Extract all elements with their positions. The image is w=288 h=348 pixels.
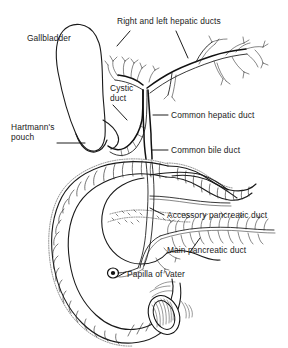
label-right-and-left-hepatic-ducts: Right and left hepatic ducts [117,16,221,26]
label-main-pancreatic-duct: Main pancreatic duct [167,245,246,255]
anatomy-diagram: Gallbladder Right and left hepatic ducts… [0,0,288,348]
label-hartmanns-pouch-line2: pouch [11,132,34,142]
label-common-bile-duct: Common bile duct [171,145,240,155]
label-accessory-pancreatic-duct: Accessory pancreatic duct [167,210,267,220]
label-papilla-of-vater: Papilla of Vater [127,269,185,279]
leader-accessory-pancreatic-duct [150,208,164,215]
main-pancreatic-duct-shape [140,212,275,273]
label-gallbladder: Gallbladder [27,33,71,43]
label-cystic-duct-line1: Cystic [110,83,133,93]
right-hepatic-duct-tree [147,36,268,101]
anatomy-illustration [0,0,288,348]
label-hartmanns-pouch-line1: Hartmann's [11,122,55,132]
leader-right-hepatic [117,31,130,46]
leader-left-hepatic [176,31,188,58]
duodenal-cut-end [143,282,193,339]
label-common-hepatic-duct: Common hepatic duct [171,110,254,120]
label-cystic-duct-line2: duct [110,93,126,103]
leader-cystic-duct [113,105,127,120]
